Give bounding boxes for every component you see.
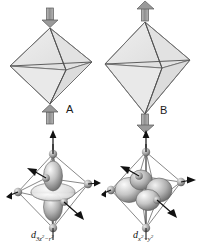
orbital-b-caption-exp2: 2 [151, 234, 154, 239]
octahedron-a-label: A [66, 104, 73, 115]
x-axis-arrow-back-a [27, 168, 46, 178]
orbital-b-diagram [101, 128, 199, 244]
compression-arrow-bottom [42, 105, 58, 125]
orbital-a-diagram [6, 128, 101, 244]
orbital-a-caption-exp2: 2 [51, 234, 54, 239]
jahn-teller-distortion-figure: A [0, 0, 199, 244]
elongation-arrow-top [137, 1, 154, 21]
orbital-b-caption-sub-mid: −y [143, 235, 150, 242]
octahedron-b-diagram [100, 0, 199, 134]
octahedron-b-body [105, 22, 190, 114]
z-axis-arrow-a [50, 130, 57, 154]
orbital-b-caption: dx2−y2 [133, 230, 153, 243]
octahedron-a-diagram [4, 4, 100, 130]
orbital-a-caption: d3z2−r2 [31, 230, 54, 243]
octahedron-b-label: B [160, 105, 167, 116]
octahedron-a-body [10, 28, 92, 104]
compression-arrow-top [42, 8, 58, 28]
